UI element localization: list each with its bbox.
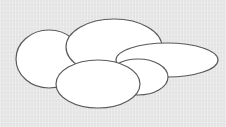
diagram-canvas xyxy=(0,0,226,127)
overlapping-ellipses-diagram xyxy=(0,0,226,127)
ellipse-bottom-front xyxy=(56,60,140,108)
